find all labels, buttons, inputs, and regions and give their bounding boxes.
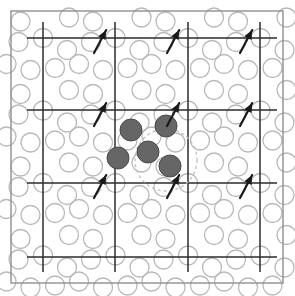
lattice-figure	[0, 0, 295, 296]
defect-atom-lower-right	[159, 155, 181, 177]
defect-atom-upper-left	[120, 119, 142, 141]
defect-atom-center	[137, 141, 159, 163]
defect-atom-left	[107, 147, 129, 169]
lattice-diagram-svg	[0, 0, 295, 296]
